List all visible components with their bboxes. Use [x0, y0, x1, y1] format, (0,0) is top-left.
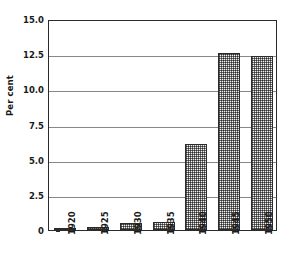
bar	[218, 53, 240, 230]
y-axis-tick-label: 2.5	[12, 192, 44, 201]
x-axis-tick-label: 1945	[232, 211, 241, 235]
x-axis-tick-label: 1920	[68, 211, 77, 235]
bar	[251, 56, 273, 230]
plot-area	[48, 20, 277, 231]
y-axis-tick-label: 0	[12, 227, 44, 236]
x-axis-tick-label: 1930	[134, 211, 143, 235]
bars-layer	[49, 21, 276, 230]
y-axis-tick-label: 15.0	[12, 16, 44, 25]
y-axis-tick-label: 5.0	[12, 156, 44, 165]
bar-chart: Per cent 02.55.07.510.012.515.0 19201925…	[0, 0, 289, 269]
y-axis-tick-labels: 02.55.07.510.012.515.0	[12, 20, 44, 231]
x-axis-tick-label: 1935	[167, 211, 176, 235]
x-axis-tick-label: 1950	[265, 211, 274, 235]
y-axis-tick-label: 10.0	[12, 86, 44, 95]
x-axis-tick-label: 1925	[101, 211, 110, 235]
x-axis-tick-label: 1940	[199, 211, 208, 235]
y-axis-tick-label: 7.5	[12, 121, 44, 130]
y-axis-tick-label: 12.5	[12, 51, 44, 60]
x-axis-tick-labels: 1920192519301935194019451950	[48, 231, 277, 269]
